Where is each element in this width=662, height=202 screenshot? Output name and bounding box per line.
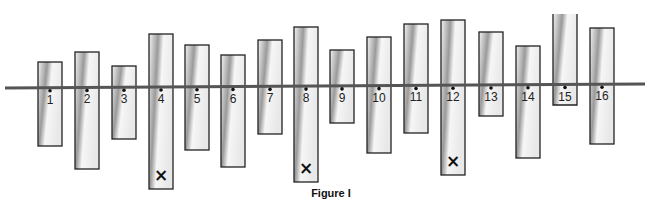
bar-6 — [221, 55, 245, 167]
figure-diagram: 1234×5678×9101112×13141516 — [0, 0, 662, 202]
reference-line — [5, 84, 645, 88]
bar-number-label: 12 — [446, 90, 460, 104]
bar-11 — [404, 24, 428, 133]
bar-number-label: 13 — [484, 90, 498, 104]
x-mark-icon: × — [154, 165, 168, 185]
bar-number-label: 4 — [158, 92, 165, 106]
bar-number-label: 14 — [521, 90, 535, 104]
bar-number-label: 8 — [303, 91, 310, 105]
bar-number-label: 15 — [558, 90, 572, 104]
bar-number-label: 9 — [339, 91, 346, 105]
bar-number-label: 5 — [194, 92, 201, 106]
bar-number-label: 7 — [267, 91, 274, 105]
figure-caption: Figure I — [0, 187, 662, 199]
x-mark-icon: × — [299, 158, 313, 178]
bar-number-label: 2 — [84, 92, 91, 106]
bar-rect — [404, 24, 428, 133]
bar-number-label: 3 — [121, 92, 128, 106]
bar-number-label: 16 — [595, 89, 609, 103]
bar-number-label: 1 — [47, 93, 54, 107]
bar-number-label: 6 — [230, 92, 237, 106]
bar-number-label: 11 — [410, 90, 423, 104]
bar-number-label: 10 — [372, 91, 386, 105]
x-mark-icon: × — [446, 151, 460, 171]
bar-2 — [75, 52, 99, 169]
bar-rect — [75, 52, 99, 169]
bar-rect — [221, 55, 245, 167]
